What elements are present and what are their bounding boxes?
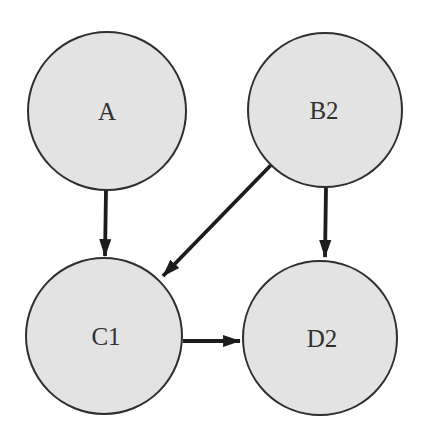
node-D2: D2 [243, 261, 397, 415]
diagram-canvas: A B2 C1 D2 [0, 0, 422, 447]
edge-A-to-C1 [105, 190, 106, 256]
node-B2-label: B2 [309, 97, 338, 124]
node-B2: B2 [248, 33, 402, 187]
node-C1: C1 [26, 258, 182, 414]
edge-B2-to-C1 [163, 165, 271, 276]
node-C1-label: C1 [91, 323, 120, 350]
directed-graph-svg: A B2 C1 D2 [0, 0, 422, 447]
node-A: A [28, 32, 186, 190]
node-A-label: A [98, 98, 116, 125]
edge-B2-to-D2 [325, 188, 326, 257]
node-D2-label: D2 [307, 325, 338, 352]
